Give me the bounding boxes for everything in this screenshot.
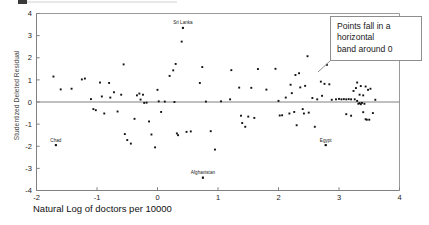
svg-text:-3: -3 — [25, 164, 32, 173]
svg-text:Chad: Chad — [50, 138, 61, 143]
svg-text:2: 2 — [28, 53, 32, 62]
svg-text:Egypt: Egypt — [320, 138, 332, 143]
data-points — [52, 27, 376, 179]
x-axis-title: Natural Log of doctors per 10000 — [33, 203, 172, 214]
y-axis-title: Studentized Deleted Residual — [13, 36, 20, 156]
annotation-callout: Points fall in a horizontal band around … — [330, 16, 422, 61]
svg-text:Sri Lanka: Sri Lanka — [173, 20, 193, 25]
svg-text:0: 0 — [28, 98, 32, 107]
svg-text:-1: -1 — [25, 120, 32, 129]
svg-text:3: 3 — [337, 193, 341, 202]
svg-text:4: 4 — [28, 9, 32, 18]
svg-text:Afghanistan: Afghanistan — [191, 170, 216, 175]
svg-text:4: 4 — [397, 193, 401, 202]
residual-scatter-figure: -2-101234-4-3-2-101234 Sri LankaChadAfgh… — [0, 0, 429, 225]
svg-text:2: 2 — [276, 193, 280, 202]
svg-text:-4: -4 — [25, 186, 32, 195]
svg-text:1: 1 — [216, 193, 220, 202]
svg-text:-2: -2 — [25, 142, 32, 151]
svg-text:3: 3 — [28, 31, 32, 40]
annotation-line-2: horizontal — [337, 32, 416, 43]
svg-text:1: 1 — [28, 76, 32, 85]
point-labels: Sri LankaChadAfghanistanEgypt — [50, 20, 332, 178]
annotation-line-3: band around 0 — [337, 44, 416, 55]
svg-text:0: 0 — [155, 193, 159, 202]
annotation-line-1: Points fall in a — [337, 21, 416, 32]
svg-text:-1: -1 — [94, 193, 101, 202]
svg-text:-2: -2 — [33, 193, 40, 202]
